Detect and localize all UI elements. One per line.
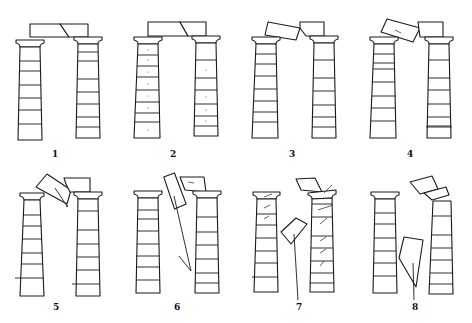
panel-label-4: 4 bbox=[407, 149, 413, 159]
left-column bbox=[16, 40, 44, 140]
architrave-block-right bbox=[300, 22, 324, 36]
collapse-sequence-figure: 1 bbox=[0, 0, 472, 323]
left-column bbox=[15, 193, 44, 296]
panel-6: 6 bbox=[134, 172, 221, 312]
architrave-block-displaced bbox=[296, 178, 322, 192]
panel-3: 3 bbox=[252, 22, 338, 159]
panel-5: 5 bbox=[15, 174, 102, 312]
left-column bbox=[252, 192, 280, 292]
panel-label-1: 1 bbox=[52, 149, 58, 159]
right-column bbox=[425, 37, 453, 138]
panel-1: 1 bbox=[16, 24, 102, 159]
right-column bbox=[192, 36, 220, 136]
panel-label-2: 2 bbox=[170, 149, 176, 159]
panel-2: 2 bbox=[134, 22, 220, 159]
right-column bbox=[310, 36, 338, 138]
panel-label-6: 6 bbox=[174, 302, 180, 312]
left-column bbox=[371, 192, 399, 293]
panel-label-5: 5 bbox=[53, 302, 59, 312]
right-column bbox=[72, 192, 102, 296]
architrave-block-right bbox=[180, 177, 206, 192]
left-column bbox=[134, 37, 162, 138]
right-column bbox=[193, 191, 221, 293]
panel-label-7: 7 bbox=[296, 302, 302, 312]
panel-label-8: 8 bbox=[412, 302, 418, 312]
trajectory-line bbox=[174, 196, 191, 271]
right-column bbox=[74, 37, 102, 138]
right-column-displaced bbox=[308, 185, 336, 292]
leader-line-7 bbox=[294, 234, 298, 300]
right-column bbox=[429, 201, 453, 294]
architrave-block-right bbox=[418, 22, 443, 37]
panel-7: 7 bbox=[252, 178, 336, 312]
panel-4: 4 bbox=[370, 19, 453, 159]
architrave-block-ground bbox=[399, 237, 423, 287]
left-column bbox=[252, 37, 280, 138]
panel-label-3: 3 bbox=[289, 149, 295, 159]
panel-8: 8 bbox=[371, 176, 453, 312]
left-column bbox=[370, 37, 398, 138]
left-column bbox=[134, 191, 162, 293]
